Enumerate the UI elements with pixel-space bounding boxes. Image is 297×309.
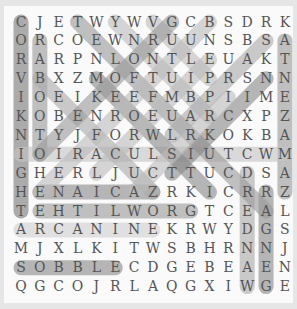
letter-cell[interactable]: R [68,164,87,183]
letter-cell[interactable]: T [125,239,144,258]
letter-cell[interactable]: I [87,183,106,202]
letter-cell[interactable]: T [200,202,219,221]
letter-cell[interactable]: J [87,277,106,296]
letter-cell[interactable]: N [275,258,294,277]
letter-cell[interactable]: O [12,31,31,50]
letter-cell[interactable]: S [257,164,276,183]
letter-cell[interactable]: G [257,220,276,239]
letter-cell[interactable]: V [12,69,31,88]
letter-cell[interactable]: Q [12,277,31,296]
letter-cell[interactable]: U [181,31,200,50]
letter-cell[interactable]: E [200,50,219,69]
letter-cell[interactable]: U [125,164,144,183]
letter-cell[interactable]: N [87,50,106,69]
letter-cell[interactable]: I [238,88,257,107]
letter-cell[interactable]: O [106,126,125,145]
letter-cell[interactable]: E [49,164,68,183]
letter-cell[interactable]: S [162,145,181,164]
letter-cell[interactable]: G [162,258,181,277]
letter-cell[interactable]: G [30,277,49,296]
letter-cell[interactable]: A [30,50,49,69]
letter-cell[interactable]: R [219,69,238,88]
letter-cell[interactable]: I [12,88,31,107]
letter-cell[interactable]: M [12,239,31,258]
letter-cell[interactable]: O [143,202,162,221]
letter-cell[interactable]: N [238,239,257,258]
letter-cell[interactable]: L [106,202,125,221]
letter-cell[interactable]: K [87,88,106,107]
letter-cell[interactable]: S [162,239,181,258]
letter-cell[interactable]: C [12,13,31,32]
letter-cell[interactable]: A [257,202,276,221]
letter-cell[interactable]: K [181,183,200,202]
letter-cell[interactable]: B [68,258,87,277]
letter-cell[interactable]: A [68,183,87,202]
letter-cell[interactable]: O [30,145,49,164]
letter-cell[interactable]: Z [68,69,87,88]
letter-cell[interactable]: U [125,145,144,164]
letter-cell[interactable]: I [219,277,238,296]
letter-cell[interactable]: U [219,50,238,69]
letter-cell[interactable]: J [30,13,49,32]
letter-cell[interactable]: N [143,50,162,69]
letter-cell[interactable]: H [49,202,68,221]
letter-cell[interactable]: R [238,183,257,202]
letter-cell[interactable]: T [181,164,200,183]
letter-cell[interactable]: C [181,13,200,32]
letter-cell[interactable]: B [181,239,200,258]
letter-cell[interactable]: O [68,31,87,50]
letter-cell[interactable]: R [30,220,49,239]
letter-cell[interactable]: E [143,220,162,239]
letter-cell[interactable]: A [275,31,294,50]
letter-cell[interactable]: J [30,239,49,258]
letter-cell[interactable]: U [200,145,219,164]
letter-cell[interactable]: U [162,107,181,126]
letter-cell[interactable]: R [68,145,87,164]
letter-cell[interactable]: R [143,31,162,50]
letter-cell[interactable]: P [200,69,219,88]
letter-cell[interactable]: Y [49,126,68,145]
letter-cell[interactable]: C [49,220,68,239]
letter-cell[interactable]: B [200,13,219,32]
letter-cell[interactable]: O [125,50,144,69]
letter-cell[interactable]: M [257,88,276,107]
letter-cell[interactable]: T [275,50,294,69]
letter-cell[interactable]: T [162,164,181,183]
letter-cell[interactable]: S [257,31,276,50]
letter-cell[interactable]: R [219,239,238,258]
letter-cell[interactable]: O [125,107,144,126]
letter-cell[interactable]: C [219,164,238,183]
letter-cell[interactable]: L [162,126,181,145]
letter-cell[interactable]: E [106,88,125,107]
letter-cell[interactable]: T [162,50,181,69]
letter-cell[interactable]: R [125,126,144,145]
letter-cell[interactable]: L [87,258,106,277]
letter-cell[interactable]: U [200,164,219,183]
letter-cell[interactable]: E [49,88,68,107]
letter-cell[interactable]: I [181,145,200,164]
letter-cell[interactable]: I [181,69,200,88]
letter-cell[interactable]: L [125,277,144,296]
letter-cell[interactable]: N [257,239,276,258]
letter-cell[interactable]: W [143,126,162,145]
letter-cell[interactable]: Z [275,183,294,202]
letter-cell[interactable]: L [181,50,200,69]
letter-cell[interactable]: B [30,69,49,88]
letter-cell[interactable]: N [49,183,68,202]
letter-cell[interactable]: Z [275,107,294,126]
letter-cell[interactable]: S [219,13,238,32]
letter-cell[interactable]: A [238,50,257,69]
letter-cell[interactable]: B [49,107,68,126]
letter-cell[interactable]: A [275,126,294,145]
letter-cell[interactable]: A [181,107,200,126]
letter-cell[interactable]: G [181,277,200,296]
letter-cell[interactable]: S [219,31,238,50]
letter-cell[interactable]: M [87,69,106,88]
letter-cell[interactable]: I [68,88,87,107]
letter-cell[interactable]: Y [219,220,238,239]
letter-cell[interactable]: T [30,126,49,145]
letter-cell[interactable]: B [181,88,200,107]
letter-cell[interactable]: M [162,88,181,107]
letter-cell[interactable]: D [238,220,257,239]
letter-cell[interactable]: G [181,202,200,221]
